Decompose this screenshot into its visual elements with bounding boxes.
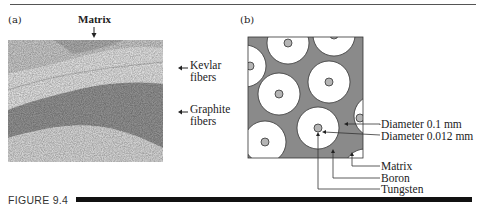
caption-rule — [76, 197, 472, 202]
diameter-tungsten-label: Diameter 0.012 mm — [381, 131, 473, 142]
kevlar-label-line2: fibers — [190, 72, 216, 83]
fiber-cross-section-diagram — [240, 30, 479, 195]
arrow-left-icon — [178, 65, 188, 71]
figure-caption-label: FIGURE 9.4 — [8, 194, 68, 206]
graphite-label-line1: Graphite — [190, 104, 230, 115]
panel-b-label: (b) — [240, 14, 254, 25]
kevlar-label-line1: Kevlar — [190, 60, 221, 71]
matrix-label-a: Matrix — [78, 14, 111, 25]
graphite-label-line2: fibers — [190, 116, 216, 127]
diameter-boron-label: Diameter 0.1 mm — [381, 119, 462, 130]
arrow-left-icon — [178, 109, 188, 115]
top-rule — [10, 4, 476, 5]
matrix-label-b: Matrix — [381, 161, 412, 172]
panel-a-label: (a) — [8, 14, 22, 25]
arrow-down-icon — [90, 27, 98, 38]
micrograph-image — [8, 40, 163, 162]
tungsten-label: Tungsten — [381, 184, 423, 195]
